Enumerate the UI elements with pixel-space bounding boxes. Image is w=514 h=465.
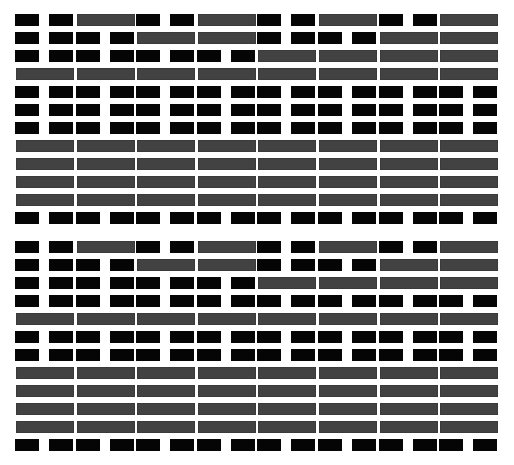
gray-bar: [380, 176, 438, 188]
pattern-row: [15, 122, 500, 134]
black-block: [439, 122, 463, 134]
gray-bar: [16, 140, 74, 152]
gray-cell: [439, 421, 498, 433]
black-block: [473, 212, 497, 224]
pair-cell: [15, 212, 74, 224]
pair-cell: [318, 295, 377, 307]
black-block: [110, 277, 134, 289]
black-block: [49, 439, 73, 451]
black-block: [15, 349, 39, 361]
gray-bar: [440, 14, 498, 26]
gray-bar: [380, 50, 438, 62]
gray-cell: [257, 421, 316, 433]
gray-cell: [318, 241, 377, 253]
black-block: [136, 14, 160, 26]
black-block: [76, 50, 100, 62]
gray-cell: [15, 194, 74, 206]
black-block: [352, 32, 376, 44]
gray-bar: [77, 385, 135, 397]
black-block: [379, 331, 403, 343]
black-block: [257, 14, 281, 26]
black-block: [257, 295, 281, 307]
pair-cell: [257, 122, 316, 134]
pattern-row: [15, 403, 500, 415]
black-block: [110, 104, 134, 116]
black-block: [110, 32, 134, 44]
gray-bar: [380, 367, 438, 379]
gray-cell: [76, 385, 135, 397]
gray-bar: [137, 385, 195, 397]
black-block: [379, 104, 403, 116]
gray-cell: [197, 313, 256, 325]
black-block: [439, 104, 463, 116]
gray-bar: [77, 14, 135, 26]
black-block: [291, 14, 315, 26]
gray-bar: [440, 158, 498, 170]
black-block: [413, 212, 437, 224]
black-block: [473, 439, 497, 451]
pair-cell: [76, 349, 135, 361]
gray-cell: [318, 277, 377, 289]
pair-cell: [136, 277, 195, 289]
gray-bar: [380, 158, 438, 170]
black-block: [197, 331, 221, 343]
gray-cell: [76, 194, 135, 206]
pattern-row: [15, 367, 500, 379]
black-block: [352, 104, 376, 116]
black-block: [136, 104, 160, 116]
gray-bar: [137, 367, 195, 379]
black-block: [15, 277, 39, 289]
gray-bar: [77, 68, 135, 80]
gray-cell: [439, 313, 498, 325]
gray-bar: [16, 313, 74, 325]
pair-cell: [15, 241, 74, 253]
black-block: [379, 212, 403, 224]
gray-cell: [76, 241, 135, 253]
black-block: [170, 212, 194, 224]
black-block: [318, 212, 342, 224]
gray-cell: [15, 385, 74, 397]
pair-cell: [136, 295, 195, 307]
black-block: [49, 349, 73, 361]
gray-bar: [380, 403, 438, 415]
black-block: [291, 349, 315, 361]
pattern-row: [15, 349, 500, 361]
black-block: [318, 439, 342, 451]
pair-cell: [136, 241, 195, 253]
gray-cell: [318, 176, 377, 188]
pattern-row: [15, 313, 500, 325]
black-block: [257, 349, 281, 361]
pattern-row: [15, 385, 500, 397]
black-block: [291, 331, 315, 343]
pair-cell: [318, 32, 377, 44]
gray-cell: [439, 140, 498, 152]
gray-cell: [379, 194, 438, 206]
pair-cell: [318, 104, 377, 116]
pair-cell: [439, 212, 498, 224]
black-block: [170, 331, 194, 343]
gray-cell: [136, 421, 195, 433]
black-block: [170, 295, 194, 307]
gray-bar: [440, 176, 498, 188]
pair-cell: [197, 295, 256, 307]
pair-cell: [257, 439, 316, 451]
gray-bar: [198, 158, 256, 170]
gray-cell: [318, 140, 377, 152]
black-block: [49, 277, 73, 289]
pair-cell: [379, 86, 438, 98]
gray-bar: [440, 421, 498, 433]
gray-cell: [318, 313, 377, 325]
black-block: [291, 32, 315, 44]
black-block: [110, 259, 134, 271]
gray-cell: [318, 50, 377, 62]
pair-cell: [136, 331, 195, 343]
gray-cell: [379, 32, 438, 44]
black-block: [49, 50, 73, 62]
gray-bar: [137, 176, 195, 188]
pair-cell: [257, 331, 316, 343]
gray-bar: [198, 313, 256, 325]
black-block: [318, 104, 342, 116]
black-block: [15, 104, 39, 116]
gray-cell: [136, 385, 195, 397]
black-block: [439, 212, 463, 224]
